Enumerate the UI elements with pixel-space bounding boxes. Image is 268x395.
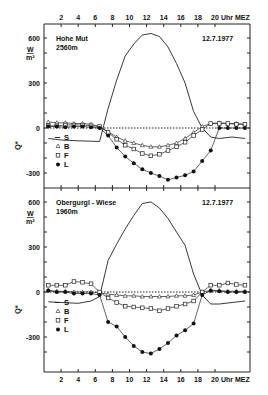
marker-circle-filled (226, 126, 230, 130)
marker-square-open (123, 143, 127, 147)
legend-label-B: B (64, 307, 70, 316)
x-tick-label: 2 (59, 14, 63, 21)
x-tick-label: 18 (194, 14, 202, 21)
marker-circle-filled (72, 125, 76, 129)
marker-circle-filled (46, 289, 50, 293)
y-axis-label: Q* (13, 141, 22, 150)
marker-square-open (106, 296, 110, 300)
legend-triangle-icon (56, 144, 60, 148)
marker-square-open (200, 128, 204, 132)
x-tick-label: 14 (160, 14, 168, 21)
x-tick-label: 12 (143, 14, 151, 21)
marker-circle-filled (72, 292, 76, 296)
marker-circle-filled (63, 290, 67, 294)
marker-circle-filled (209, 289, 213, 293)
legend-label-S: S (64, 133, 69, 142)
y-tick-label: 300 (28, 80, 40, 87)
marker-triangle-open (183, 137, 187, 141)
marker-circle-filled (157, 347, 161, 351)
marker-circle-filled (106, 320, 110, 324)
marker-square-open (243, 283, 247, 287)
y-tick-label: 300 (28, 244, 40, 251)
panel-date: 12.7.1977 (202, 199, 233, 206)
station-elevation: 2560m (56, 44, 78, 51)
marker-circle-filled (183, 328, 187, 332)
marker-square-open (235, 122, 239, 126)
marker-square-open (123, 304, 127, 308)
marker-circle-filled (63, 125, 67, 129)
marker-square-open (209, 122, 213, 126)
y-unit-denominator: m² (26, 218, 35, 225)
panel-hohe-mut: 6003000-300Wm²Hohe Mut2560m12.7.1977SBFL… (13, 34, 250, 182)
legend-circle-icon (56, 163, 60, 167)
panel-obergurgl-wiese: 6003000-300Wm²Obergurgl - Wiese1960m12.7… (13, 199, 250, 356)
x-tick-label: 4 (76, 376, 80, 383)
marker-circle-filled (106, 134, 110, 138)
marker-triangle-open (175, 141, 179, 145)
legend-square-icon (56, 154, 60, 158)
marker-square-open (243, 122, 247, 126)
y-unit-numerator: W (27, 46, 34, 53)
marker-circle-filled (157, 174, 161, 178)
marker-square-open (166, 307, 170, 311)
series-B-line (48, 122, 245, 147)
marker-circle-filled (234, 290, 238, 294)
marker-square-open (192, 134, 196, 138)
marker-square-open (166, 149, 170, 153)
series-L-line (48, 127, 245, 180)
x-tick-label: 20 (211, 14, 219, 21)
x-tick-label: 18 (194, 376, 202, 383)
marker-circle-filled (217, 289, 221, 293)
x-tick-label: 2 (59, 376, 63, 383)
marker-circle-filled (115, 146, 119, 150)
y-unit-numerator: W (27, 210, 34, 217)
legend-label-B: B (64, 142, 70, 151)
series-L-line (48, 291, 245, 354)
marker-circle-filled (149, 171, 153, 175)
marker-circle-filled (140, 350, 144, 354)
marker-square-open (141, 306, 145, 310)
marker-circle-filled (166, 341, 170, 345)
marker-circle-filled (243, 290, 247, 294)
marker-square-open (72, 280, 76, 284)
marker-square-open (55, 283, 59, 287)
marker-square-open (46, 283, 50, 287)
marker-square-open (149, 154, 153, 158)
marker-circle-filled (46, 125, 50, 129)
x-tick-label: 10 (126, 376, 134, 383)
marker-circle-filled (132, 161, 136, 165)
y-tick-label: -300 (26, 170, 40, 177)
marker-circle-filled (192, 322, 196, 326)
marker-square-open (132, 305, 136, 309)
x-tick-label: 6 (93, 376, 97, 383)
marker-square-open (235, 283, 239, 287)
x-unit-label: Uhr MEZ (221, 14, 251, 21)
marker-square-open (226, 281, 230, 285)
legend-square-icon (56, 319, 60, 323)
marker-circle-filled (89, 125, 93, 129)
marker-square-open (115, 301, 119, 305)
marker-circle-filled (183, 173, 187, 177)
y-unit-denominator: m² (26, 54, 35, 61)
x-tick-label: 10 (126, 14, 134, 21)
legend-label-L: L (64, 160, 69, 169)
marker-circle-filled (55, 125, 59, 129)
marker-circle-filled (123, 335, 127, 339)
x-axis-bottom: 2468101214161820Uhr MEZ (59, 369, 250, 383)
marker-square-open (64, 283, 68, 287)
x-tick-label: 16 (177, 376, 185, 383)
marker-circle-filled (80, 125, 84, 129)
marker-square-open (141, 152, 145, 156)
x-tick-label: 8 (110, 14, 114, 21)
marker-triangle-open (46, 120, 50, 124)
legend-triangle-icon (56, 309, 60, 313)
chart-frame (44, 24, 250, 372)
station-elevation: 1960m (56, 208, 78, 215)
marker-circle-filled (123, 155, 127, 159)
marker-circle-filled (226, 290, 230, 294)
marker-circle-filled (89, 292, 93, 296)
marker-square-open (226, 122, 230, 126)
marker-circle-filled (115, 325, 119, 329)
marker-circle-filled (243, 126, 247, 130)
marker-square-open (149, 307, 153, 311)
